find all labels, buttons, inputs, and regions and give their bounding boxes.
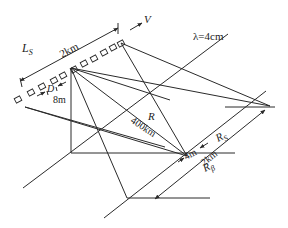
label-4m: 4m — [182, 146, 199, 162]
velocity-arrow — [130, 23, 142, 30]
label-d: D — [46, 83, 55, 94]
label-r: R — [147, 110, 155, 122]
label-antenna-size: 8m — [53, 94, 66, 105]
label-velocity: V — [144, 13, 152, 25]
label-wavelength: λ=4cm — [193, 30, 224, 42]
label-ls: LS — [21, 41, 33, 57]
label-aperture-length: 2km — [57, 40, 80, 60]
sar-geometry-diagram: LS 2km V λ=4cm D 8m R 400km 4m RS 2km Rβ — [0, 0, 288, 228]
